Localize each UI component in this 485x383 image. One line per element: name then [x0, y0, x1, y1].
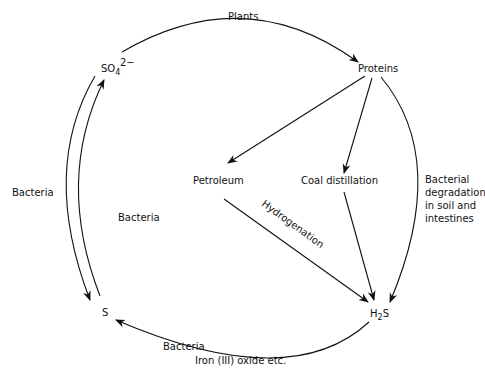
edge-bacterial-degradation: [381, 77, 418, 302]
edge-plants: [122, 18, 358, 62]
label-hydrogenation: Hydrogenation: [260, 198, 326, 250]
edge-s-to-so4: [78, 80, 104, 296]
label-bacteria-bottom: Bacteria: [163, 341, 205, 352]
label-plants: Plants: [228, 11, 258, 22]
label-iron-oxide: Iron (III) oxide etc.: [195, 355, 286, 366]
label-bacterial-degradation-2: degradation: [425, 187, 485, 198]
label-bacteria-left: Bacteria: [12, 187, 54, 198]
edge-coal-h2s: [344, 192, 374, 300]
node-proteins: Proteins: [358, 63, 398, 74]
edge-h2s-to-s: [116, 320, 369, 358]
node-coal-distillation: Coal distillation: [301, 175, 378, 186]
label-bacterial-degradation-4: intestines: [425, 213, 474, 224]
edge-hydrogenation: [224, 199, 368, 302]
label-bacterial-degradation-1: Bacterial: [425, 174, 469, 185]
node-so4-charge: 2−: [120, 57, 135, 68]
sulfur-cycle-diagram: SO4 2− Proteins Petroleum Coal distillat…: [0, 0, 485, 383]
edge-proteins-coal: [344, 78, 372, 173]
label-bacterial-degradation-3: in soil and: [425, 200, 476, 211]
label-bacteria-center: Bacteria: [118, 212, 160, 223]
node-h2s: H2S: [370, 308, 389, 322]
node-s: S: [102, 307, 108, 318]
node-petroleum: Petroleum: [193, 175, 244, 186]
node-so4: SO4: [101, 63, 120, 77]
edge-proteins-petroleum: [228, 76, 365, 163]
edge-so4-to-s: [66, 76, 95, 300]
